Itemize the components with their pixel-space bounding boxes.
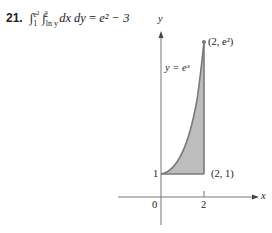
y-axis-arrow-icon (159, 31, 164, 38)
x-axis-label: x (261, 190, 266, 201)
region-figure (0, 0, 272, 233)
point-top-label: (2, e²) (208, 36, 233, 47)
y-tick-label-1: 1 (153, 168, 158, 179)
x-tick-label-2: 2 (201, 199, 206, 210)
curve-label: y = eˣ (165, 62, 190, 73)
point-2-e2 (202, 40, 206, 44)
y-axis-label: y (158, 13, 163, 24)
point-bottom-label: (2, 1) (211, 168, 234, 179)
origin-label: 0 (152, 199, 157, 210)
x-axis-arrow-icon (252, 195, 259, 200)
